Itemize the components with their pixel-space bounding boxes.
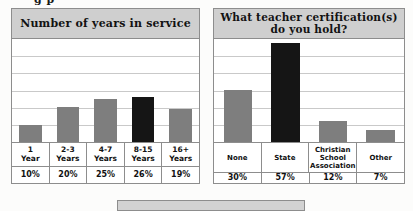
value-label: 10% xyxy=(12,167,50,183)
bar-slot xyxy=(357,39,405,142)
value-label-row-teacher-certifications: 30%57%12%7% xyxy=(214,173,404,183)
bar-slot xyxy=(214,39,262,142)
category-label: 4-7 Years xyxy=(87,143,125,166)
bar-series-years-in-service xyxy=(12,39,199,142)
chart-teacher-certifications: What teacher certification(s) do you hol… xyxy=(213,8,405,184)
value-label: 25% xyxy=(87,167,125,183)
category-label: 1 Year xyxy=(12,143,50,166)
bar xyxy=(319,121,348,142)
bar-slot xyxy=(87,39,124,142)
value-label: 26% xyxy=(125,167,163,183)
chart-title-years-in-service: Number of years in service xyxy=(12,9,199,39)
bar-slot xyxy=(309,39,357,142)
category-label: 16+ Years xyxy=(162,143,199,166)
bar-series-teacher-certifications xyxy=(214,39,404,142)
bar-slot xyxy=(262,39,310,142)
bar xyxy=(366,130,395,142)
value-label: 20% xyxy=(50,167,88,183)
cut-text-fragment: g p xyxy=(34,0,55,6)
bar xyxy=(19,125,41,142)
bar xyxy=(132,97,154,142)
bar xyxy=(169,109,191,142)
value-label: 57% xyxy=(262,173,310,183)
bar xyxy=(94,99,116,142)
category-label: 2-3 Years xyxy=(50,143,88,166)
category-label: Other xyxy=(357,143,404,172)
value-label: 19% xyxy=(162,167,199,183)
plot-area-years-in-service xyxy=(12,39,199,143)
bar xyxy=(224,90,253,142)
category-label: 8-15 Years xyxy=(125,143,163,166)
category-label: Christian School Association xyxy=(309,143,357,172)
bar-slot xyxy=(162,39,199,142)
bar xyxy=(271,43,300,142)
cut-off-gray-panel xyxy=(117,200,305,211)
bar-slot xyxy=(12,39,49,142)
chart-title-teacher-certifications: What teacher certification(s) do you hol… xyxy=(214,9,404,39)
plot-area-teacher-certifications xyxy=(214,39,404,143)
bar xyxy=(57,107,79,142)
value-label-row-years-in-service: 10%20%25%26%19% xyxy=(12,167,199,183)
value-label: 30% xyxy=(214,173,262,183)
category-label: State xyxy=(262,143,310,172)
category-label-row-teacher-certifications: NoneStateChristian School AssociationOth… xyxy=(214,143,404,173)
value-label: 12% xyxy=(310,173,358,183)
category-label-row-years-in-service: 1 Year2-3 Years4-7 Years8-15 Years16+ Ye… xyxy=(12,143,199,167)
cut-off-heading-descenders: g p xyxy=(0,0,413,6)
category-label: None xyxy=(214,143,262,172)
value-label: 7% xyxy=(357,173,404,183)
bar-slot xyxy=(49,39,86,142)
chart-years-in-service: Number of years in service 1 Year2-3 Yea… xyxy=(11,8,200,184)
bar-slot xyxy=(124,39,161,142)
